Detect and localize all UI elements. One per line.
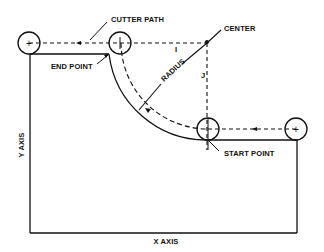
- center-dot: [205, 40, 209, 44]
- circular-interpolation-diagram: + + CUTTER PATH CENTER END POINT I J RAD…: [0, 0, 324, 252]
- start-point-leader: [209, 141, 219, 151]
- j-label: J: [201, 71, 205, 80]
- y-axis-label: Y AXIS: [17, 133, 26, 158]
- radius-label: RADIUS: [159, 57, 187, 84]
- i-label: I: [175, 45, 177, 54]
- cutter-path-label: CUTTER PATH: [111, 15, 164, 24]
- start-point-label: START POINT: [224, 149, 275, 158]
- arrow-left-icon: [252, 127, 257, 131]
- tool-start: [197, 118, 219, 150]
- arrow-up-left-icon: [145, 108, 151, 113]
- plus-icon: +: [26, 38, 32, 49]
- plus-icon: +: [293, 124, 299, 135]
- arrow-left-icon: [76, 41, 81, 45]
- x-axis-label: X AXIS: [154, 237, 179, 246]
- cutter-path-leader: [90, 22, 107, 40]
- center-label: CENTER: [224, 24, 256, 33]
- end-point-label: END POINT: [51, 62, 93, 71]
